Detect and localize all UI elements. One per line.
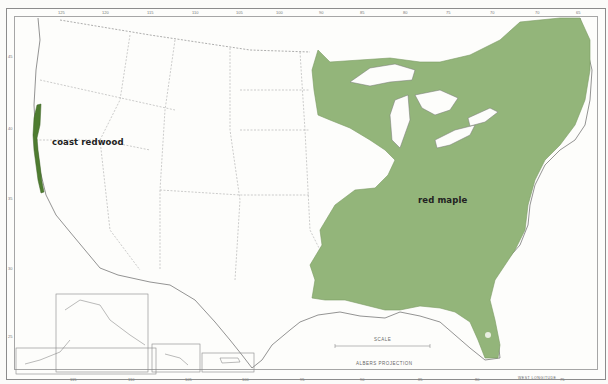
svg-text:45: 45 bbox=[8, 54, 13, 59]
svg-text:105: 105 bbox=[236, 10, 243, 15]
svg-text:125: 125 bbox=[58, 10, 65, 15]
svg-text:105: 105 bbox=[185, 377, 192, 382]
bottom-longitude-ticks: 115110105 1009590 858075 bbox=[70, 377, 565, 382]
red-maple-range bbox=[310, 18, 590, 358]
svg-text:100: 100 bbox=[276, 10, 283, 15]
svg-text:35: 35 bbox=[8, 196, 13, 201]
range-map: 125120115 110105100 908580 75707065 4540… bbox=[0, 0, 608, 384]
svg-text:30: 30 bbox=[8, 266, 13, 271]
svg-text:40: 40 bbox=[8, 126, 13, 131]
svg-text:100: 100 bbox=[242, 377, 249, 382]
svg-text:75: 75 bbox=[446, 10, 451, 15]
svg-text:65: 65 bbox=[576, 10, 581, 15]
svg-text:115: 115 bbox=[147, 10, 154, 15]
svg-text:85: 85 bbox=[418, 377, 423, 382]
projection-label: ALBERS PROJECTION bbox=[356, 361, 413, 366]
red-maple-label: red maple bbox=[418, 195, 467, 205]
west-longitude-label: WEST LONGITUDE bbox=[518, 376, 556, 380]
svg-text:70: 70 bbox=[535, 10, 540, 15]
svg-text:70: 70 bbox=[490, 10, 495, 15]
svg-text:120: 120 bbox=[102, 10, 109, 15]
coast-redwood-label: coast redwood bbox=[52, 137, 124, 147]
svg-text:90: 90 bbox=[360, 377, 365, 382]
state-boundaries bbox=[36, 35, 330, 280]
svg-text:110: 110 bbox=[128, 377, 135, 382]
svg-text:110: 110 bbox=[192, 10, 199, 15]
svg-text:80: 80 bbox=[403, 10, 408, 15]
svg-text:95: 95 bbox=[300, 377, 305, 382]
svg-text:115: 115 bbox=[70, 377, 77, 382]
left-latitude-ticks: 454035 3025 bbox=[8, 54, 13, 339]
insets bbox=[16, 294, 254, 374]
top-longitude-ticks: 125120115 110105100 908580 75707065 bbox=[58, 10, 581, 15]
svg-text:25: 25 bbox=[8, 334, 13, 339]
svg-text:80: 80 bbox=[475, 377, 480, 382]
svg-text:75: 75 bbox=[560, 377, 565, 382]
svg-text:85: 85 bbox=[360, 10, 365, 15]
svg-text:90: 90 bbox=[319, 10, 324, 15]
scale-bar bbox=[335, 344, 430, 348]
scale-title: SCALE bbox=[374, 337, 391, 342]
